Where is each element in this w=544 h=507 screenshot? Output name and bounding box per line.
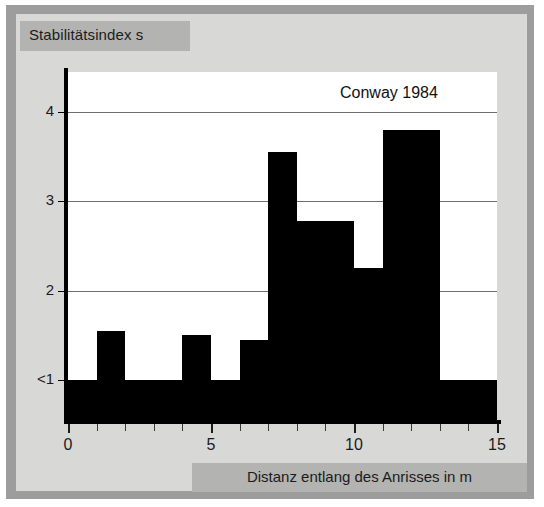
bar-12 <box>440 380 497 420</box>
x-tick-3 <box>154 424 155 431</box>
x-tick-2 <box>125 424 126 431</box>
y-tick-3 <box>58 112 64 113</box>
x-tick-7 <box>268 424 269 431</box>
x-tick-13 <box>440 424 441 431</box>
x-tick-1 <box>97 424 98 431</box>
y-tick-0 <box>58 380 64 381</box>
gridline-y-4 <box>68 112 497 113</box>
x-axis-caption: Distanz entlang des Anrisses in m <box>192 468 527 485</box>
bar-7 <box>268 152 297 420</box>
x-tick-6 <box>240 424 241 431</box>
bar-3 <box>154 380 183 420</box>
x-tick-9 <box>325 424 326 431</box>
bar-5 <box>211 380 240 420</box>
bar-2 <box>125 380 154 420</box>
x-tick-label-0: 0 <box>48 436 88 454</box>
plot-panel: Conway 1984 <box>68 72 497 420</box>
y-tick-label-0: <1 <box>37 370 54 387</box>
y-axis-caption: Stabilitätsindex s <box>29 26 143 43</box>
x-tick-11 <box>383 424 384 431</box>
bar-1 <box>97 331 126 420</box>
x-tick-14 <box>468 424 469 431</box>
y-axis-caption-band: Stabilitätsindex s <box>20 21 190 51</box>
bar-6 <box>240 340 269 420</box>
figure-scan: Stabilitätsindex s Conway 1984 <1234 051… <box>0 0 544 507</box>
x-tick-label-2: 10 <box>334 436 374 454</box>
x-tick-12 <box>411 424 412 431</box>
x-axis-caption-band: Distanz entlang des Anrisses in m <box>192 463 527 492</box>
bar-0 <box>68 380 97 420</box>
x-tick-0 <box>68 424 70 433</box>
x-tick-label-3: 15 <box>477 436 517 454</box>
y-tick-1 <box>58 291 64 292</box>
bar-9 <box>325 221 354 420</box>
y-axis-line <box>64 68 68 424</box>
x-tick-5 <box>211 424 213 433</box>
chart-annotation: Conway 1984 <box>340 84 438 102</box>
y-tick-2 <box>58 201 64 202</box>
y-tick-label-2: 3 <box>46 191 54 208</box>
bar-11 <box>383 130 440 420</box>
bar-10 <box>354 268 383 420</box>
x-tick-label-1: 5 <box>191 436 231 454</box>
x-tick-10 <box>354 424 356 433</box>
x-tick-8 <box>297 424 298 431</box>
x-tick-15 <box>497 424 499 433</box>
bar-8 <box>297 221 326 420</box>
x-axis-line <box>64 420 501 424</box>
x-tick-4 <box>182 424 183 431</box>
y-tick-label-3: 4 <box>46 102 54 119</box>
y-tick-label-1: 2 <box>46 281 54 298</box>
bar-4 <box>182 335 211 420</box>
